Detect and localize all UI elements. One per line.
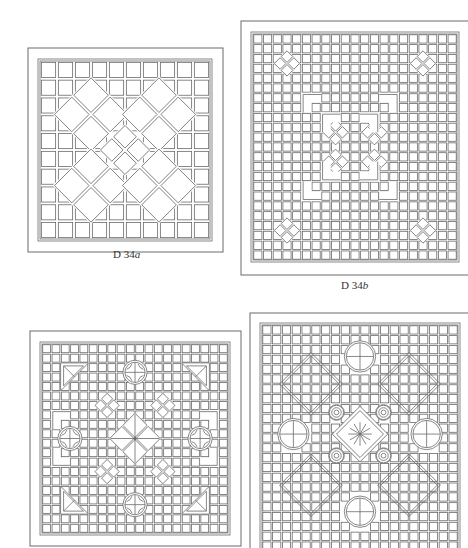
rosette-motif [329, 405, 345, 421]
circle-cross-motif [278, 418, 309, 449]
rosette-motif [329, 448, 345, 464]
circle-cross-motif [411, 418, 442, 449]
rosette-motif [376, 448, 392, 464]
circle-cross-motif [344, 496, 375, 527]
rosette-motif [376, 405, 392, 421]
lattice-drawing [0, 0, 468, 548]
circle-cross-motif [344, 341, 375, 372]
